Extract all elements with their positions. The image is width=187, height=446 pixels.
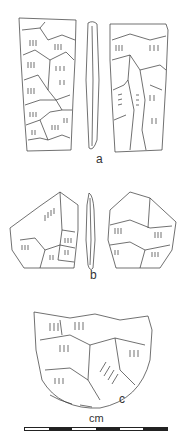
scale-segment: [96, 428, 120, 430]
artifact-a-ventral-view: [110, 24, 168, 152]
scale-segment: [25, 428, 49, 430]
artifact-a-label: a: [96, 153, 103, 165]
artifact-b-ventral-view: [108, 192, 176, 268]
artifact-a-side-profile: [86, 22, 99, 149]
artifact-c-view: [34, 312, 152, 408]
scale-unit-label: cm: [89, 413, 104, 424]
artifact-a-dorsal-view: [19, 18, 76, 151]
scale-segment: [49, 428, 73, 430]
scale-segment: [72, 428, 96, 430]
artifact-b-label: b: [90, 269, 97, 281]
artifact-b-side-profile: [86, 193, 95, 269]
scale-segment: [120, 428, 144, 430]
lithic-illustration-plate: [0, 0, 187, 446]
artifact-c-label: c: [119, 393, 125, 405]
scale-bar: [24, 427, 168, 431]
artifact-b-dorsal-view: [10, 192, 78, 268]
scale-segment: [143, 428, 167, 430]
